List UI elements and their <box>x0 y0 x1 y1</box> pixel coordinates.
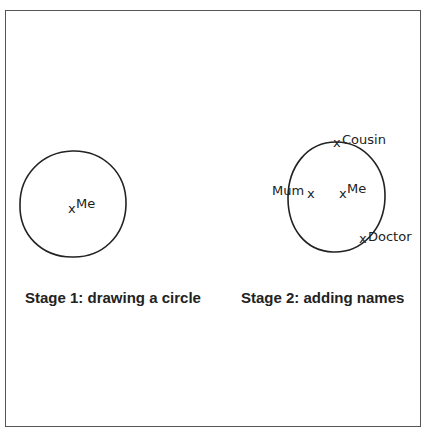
stage1-caption: Stage 1: drawing a circle <box>25 289 201 306</box>
stage1-me-marker: x <box>68 201 76 216</box>
stage1-diagram: x Me <box>20 151 126 257</box>
doctor-label: Doctor <box>368 229 412 244</box>
cousin-label: Cousin <box>342 132 386 147</box>
stage2-me-label: Me <box>347 181 366 196</box>
stage1-me-label: Me <box>76 196 95 211</box>
stage2-diagram: x Cousin Mum x x Me x Doctor <box>272 132 412 252</box>
mum-label: Mum <box>272 183 304 198</box>
cousin-marker: x <box>333 135 341 150</box>
drawing-canvas: x Me x Cousin Mum x x Me x Doctor <box>0 0 429 432</box>
stage2-caption: Stage 2: adding names <box>241 289 404 306</box>
stage2-me-marker: x <box>339 186 347 201</box>
mum-marker: x <box>307 186 315 201</box>
doctor-marker: x <box>359 231 367 246</box>
